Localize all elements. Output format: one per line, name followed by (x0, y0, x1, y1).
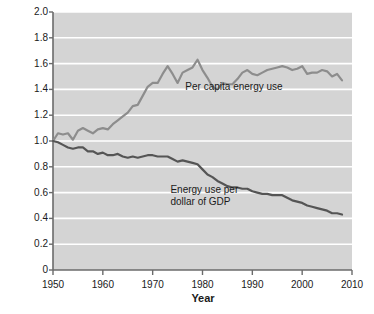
x-tick-label: 1990 (232, 274, 272, 292)
x-tick-label-text: 1970 (142, 279, 164, 290)
x-tick-label: 1960 (83, 274, 123, 292)
x-tick-label: 2000 (282, 274, 322, 292)
series-label-energy-use-per-dollar-of-gdp: Energy use perdollar of GDP (170, 184, 238, 208)
x-tick-label-text: 1990 (241, 279, 263, 290)
series-label-line2: dollar of GDP (170, 196, 230, 207)
x-tick-label-text: 1980 (191, 279, 213, 290)
x-tick-label: 1980 (183, 274, 223, 292)
x-tick-label-text: 1960 (92, 279, 114, 290)
x-tick-label-text: 1950 (42, 279, 64, 290)
plot-area (0, 0, 374, 314)
x-tick-label-text: 2000 (291, 279, 313, 290)
x-tick-label-text: 2010 (341, 279, 363, 290)
x-tick-label: 1950 (33, 274, 73, 292)
x-tick-label: 1970 (133, 274, 173, 292)
x-tick-label: 2010 (332, 274, 372, 292)
series-label-per-capita-energy-use: Per capita energy use (185, 81, 282, 93)
x-axis-title: Year (53, 292, 353, 304)
chart-figure: Value relative to 1950 00.20.40.60.81.01… (0, 0, 374, 314)
series-label-line1: Energy use per (170, 184, 238, 195)
